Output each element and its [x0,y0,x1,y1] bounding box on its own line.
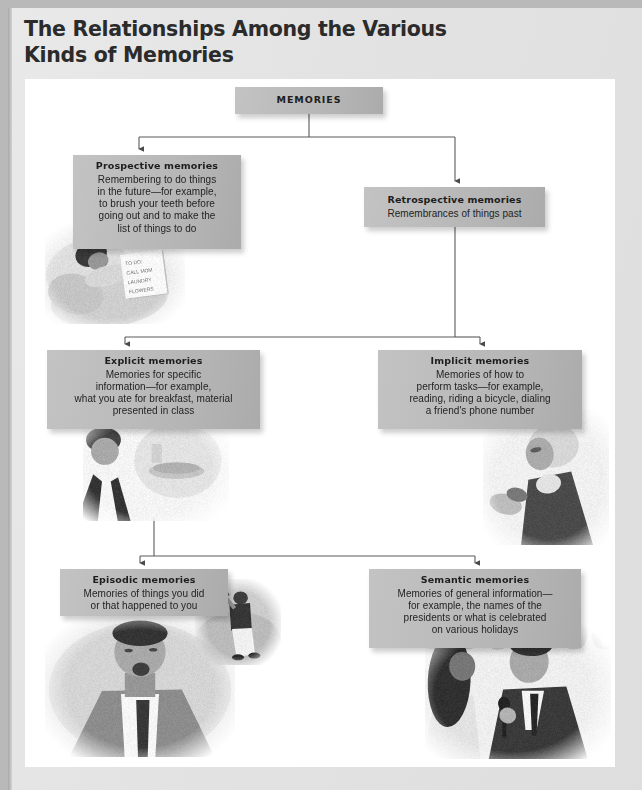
title-line-2: Kinds of Memories [24,42,494,68]
photo-man-portrait [45,607,235,757]
node-episodic-heading: Episodic memories [66,574,222,587]
node-semantic-memories[interactable]: Semantic memories Memories of general in… [369,569,581,648]
node-retrospective-memories[interactable]: Retrospective memories Remembrances of t… [364,187,545,227]
diagram-panel: MEMORIES Prospective memories Rememberin… [25,79,615,767]
node-retrospective-body: Remembrances of things past [370,208,539,220]
node-explicit-heading: Explicit memories [53,355,254,368]
node-semantic-heading: Semantic memories [375,574,575,587]
node-implicit-body: Memories of how to perform tasks—for exa… [384,369,576,418]
node-explicit-body: Memories for specific information—for ex… [53,369,254,418]
node-explicit-memories[interactable]: Explicit memories Memories for specific … [47,350,260,429]
node-implicit-memories[interactable]: Implicit memories Memories of how to per… [378,350,582,429]
node-implicit-heading: Implicit memories [384,355,576,368]
node-semantic-body: Memories of general information— for exa… [375,588,575,637]
photo-breakfast-student [83,417,229,521]
node-episodic-memories[interactable]: Episodic memories Memories of things you… [60,569,228,616]
figure-page: The Relationships Among the Various Kind… [0,0,642,790]
title-line-1: The Relationships Among the Various [24,16,494,42]
node-prospective-memories[interactable]: Prospective memories Remembering to do t… [73,155,241,249]
node-retrospective-heading: Retrospective memories [370,194,539,207]
node-memories-heading: MEMORIES [241,94,377,107]
photo-woman-dialing-phone [483,409,609,545]
node-memories[interactable]: MEMORIES [235,87,383,114]
sheet-left-edge [8,8,12,790]
node-prospective-heading: Prospective memories [79,160,235,173]
node-episodic-body: Memories of things you did or that happe… [66,588,222,613]
figure-title: The Relationships Among the Various Kind… [24,16,494,68]
node-prospective-body: Remembering to do things in the future—f… [79,174,235,235]
